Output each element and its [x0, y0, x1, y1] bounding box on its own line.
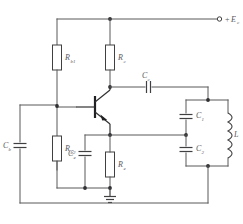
rb2-body — [53, 136, 62, 161]
rc-body — [106, 45, 115, 70]
l-coil — [228, 113, 232, 158]
c2-label-subscript: 2 — [202, 150, 205, 155]
rb1-body — [53, 45, 62, 70]
supply-label-group: + E c — [225, 15, 240, 25]
ce-label-subscript: e — [74, 155, 77, 160]
tank-circuit-group: C 1 C 2 L — [180, 87, 240, 168]
capacitor-cb-group: C b — [3, 105, 27, 203]
circuit-diagram-figure: + E c R b1 R c — [0, 0, 243, 224]
resistor-rc-group: R c — [106, 19, 127, 87]
node-dot-tank-top — [206, 98, 210, 102]
re-label-symbol: R — [117, 160, 123, 169]
transistor-collector-lead — [95, 90, 110, 102]
supply-rail-group — [57, 17, 222, 21]
c1-label-subscript: 1 — [202, 117, 205, 122]
supply-terminal-circle — [217, 17, 221, 21]
transistor-emitter-arrow — [101, 115, 108, 121]
rb1-label-subscript: b1 — [71, 59, 76, 64]
capacitor-c1-group: C 1 — [180, 100, 205, 135]
rc-label-subscript: c — [124, 59, 127, 64]
supply-label-subscript: c — [237, 20, 240, 25]
re-body — [106, 152, 115, 177]
node-dot-bottom-ce — [83, 186, 87, 190]
inductor-l-group: L — [228, 100, 239, 166]
resistor-rb1-group: R b1 — [53, 19, 76, 105]
circuit-schematic-svg: + E c R b1 R c — [0, 0, 243, 224]
rc-label-symbol: R — [117, 53, 123, 62]
ground-symbol — [104, 188, 116, 203]
capacitor-cc-group: C c — [110, 71, 208, 93]
capacitor-ce-group: C e — [68, 149, 92, 188]
emitter-rail-group — [85, 133, 186, 150]
node-dot-base — [55, 104, 59, 108]
cc-label-subscript: c — [148, 77, 151, 82]
resistor-re-group: R e — [106, 135, 127, 188]
supply-label-sign: + — [225, 15, 230, 24]
cb-label-subscript: b — [9, 147, 12, 152]
npn-transistor — [76, 85, 112, 135]
re-label-subscript: e — [124, 166, 127, 171]
rb1-label-symbol: R — [64, 53, 70, 62]
l-label-symbol: L — [233, 130, 239, 139]
base-node-group — [20, 104, 76, 170]
capacitor-c2-group: C 2 — [180, 135, 205, 166]
supply-label-symbol: E — [230, 15, 236, 24]
bottom-rail-group — [57, 161, 112, 190]
